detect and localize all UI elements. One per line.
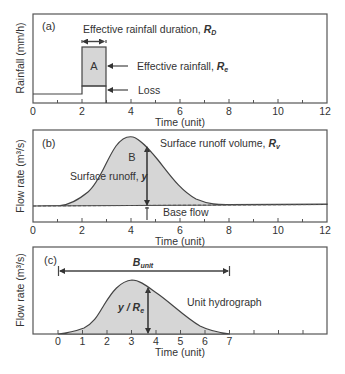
panel-c-label: (c) [44, 254, 57, 266]
svg-text:0: 0 [30, 224, 36, 236]
svg-text:10: 10 [272, 224, 284, 236]
panel-b-x-ticks [58, 218, 303, 222]
surface-runoff-annotation: Surface runoff, y [70, 170, 149, 182]
loss-line [33, 86, 106, 103]
svg-text:0: 0 [30, 105, 36, 117]
panel-c-y-axis-label: Flow rate (m³/s) [14, 253, 26, 327]
svg-text:0: 0 [55, 335, 61, 347]
effective-rainfall-annotation: Effective rainfall, Re [137, 60, 228, 73]
svg-text:2: 2 [79, 105, 85, 117]
panel-a-x-axis-label: Time (unit) [155, 116, 205, 128]
loss-annotation: Loss [138, 84, 160, 96]
panel-b-x-axis-label: Time (unit) [155, 235, 205, 247]
svg-text:10: 10 [272, 105, 284, 117]
panel-a: (a) 0 2 4 6 8 10 12 Time (unit) Rainfall… [14, 14, 331, 128]
panel-a-y-axis-label: Rainfall (mm/h) [14, 22, 26, 93]
svg-text:3: 3 [129, 335, 135, 347]
peak-ratio-annotation: y / Re [117, 301, 144, 314]
svg-text:2: 2 [104, 335, 110, 347]
panel-a-label: (a) [42, 20, 55, 32]
runoff-volume-annotation: Surface runoff volume, Rv [160, 137, 281, 150]
svg-text:8: 8 [226, 105, 232, 117]
panel-b-y-axis-label: Flow rate (m³/s) [14, 139, 26, 213]
hydrograph-figure: (a) 0 2 4 6 8 10 12 Time (unit) Rainfall… [0, 0, 345, 374]
svg-text:1: 1 [80, 335, 86, 347]
panel-b: (b) 0 2 4 6 8 10 12 Time (unit) Flow rat… [14, 130, 331, 247]
svg-text:12: 12 [319, 224, 331, 236]
panel-c: (c) 0 1 2 3 4 5 6 7 Time (unit) Flow rat [14, 247, 327, 358]
panel-c-x-axis-label: Time (unit) [155, 346, 205, 358]
svg-text:4: 4 [128, 224, 134, 236]
panel-c-x-tick-labels: 0 1 2 3 4 5 6 7 [55, 335, 233, 347]
unit-hydrograph-annotation: Unit hydrograph [187, 296, 262, 308]
svg-text:8: 8 [226, 224, 232, 236]
duration-annotation: Effective rainfall duration, RD [83, 23, 216, 36]
svg-text:12: 12 [319, 105, 331, 117]
region-b-label: B [128, 151, 135, 163]
base-duration-annotation: Bunit [133, 256, 154, 269]
svg-text:2: 2 [79, 224, 85, 236]
region-a-label: A [90, 60, 98, 72]
base-flow-annotation: Base flow [163, 206, 209, 218]
panel-b-label: (b) [42, 137, 55, 149]
svg-text:4: 4 [128, 105, 134, 117]
svg-text:7: 7 [227, 335, 233, 347]
